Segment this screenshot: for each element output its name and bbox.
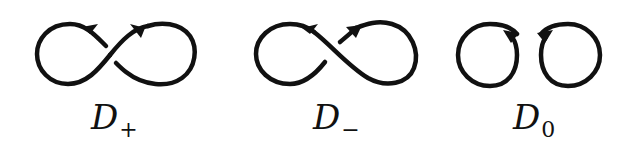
diagram-d-zero (458, 24, 600, 86)
label-d-minus-sub: − (341, 117, 359, 142)
label-d-plus-sub: + (119, 117, 137, 142)
diagram-d-minus (256, 22, 416, 84)
d-plus-right-lobe (116, 24, 195, 85)
d-plus-left-lobe (37, 24, 110, 84)
label-d-zero-main: D (513, 97, 540, 137)
label-d-plus: D+ (91, 100, 138, 134)
diagram-d-plus (37, 24, 195, 85)
d-minus-over-strand (314, 22, 416, 83)
label-d-zero-sub: 0 (541, 117, 555, 142)
label-d-minus: D− (313, 100, 360, 134)
label-d-zero: D0 (513, 100, 555, 134)
label-d-minus-main: D (313, 97, 340, 137)
label-d-plus-main: D (91, 97, 118, 137)
d-zero-arrow-right-icon (537, 30, 553, 43)
